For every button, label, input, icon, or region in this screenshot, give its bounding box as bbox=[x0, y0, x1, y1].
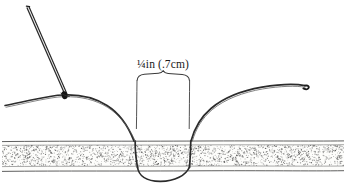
thread-left-tail-highlight bbox=[6, 97, 65, 108]
thread-main-descending-arc bbox=[65, 95, 135, 141]
needle-group bbox=[26, 6, 67, 96]
needle-shaft-inner bbox=[29, 7, 67, 94]
thread-main-rising-arc bbox=[191, 84, 305, 141]
illustration-canvas: ¼in (.7cm) bbox=[0, 0, 346, 186]
measurement-bracket-group: ¼in (.7cm) bbox=[136, 58, 189, 129]
thread-left-tail bbox=[5, 95, 65, 106]
stitch-illustration-figure: ¼in (.7cm) bbox=[0, 0, 346, 186]
measurement-left-extension-line bbox=[136, 81, 137, 129]
measurement-brace-top bbox=[137, 71, 189, 81]
needle-shaft-highlight bbox=[28, 8, 66, 95]
fabric-band-group bbox=[2, 141, 345, 172]
thread-main-descending-arc-inner bbox=[65, 97, 135, 141]
measurement-label: ¼in (.7cm) bbox=[137, 58, 189, 71]
thread-main-rising-arc-inner bbox=[192, 86, 305, 141]
fabric-bottom-edge-line bbox=[2, 171, 344, 172]
needle-shaft-outer bbox=[27, 8, 65, 96]
